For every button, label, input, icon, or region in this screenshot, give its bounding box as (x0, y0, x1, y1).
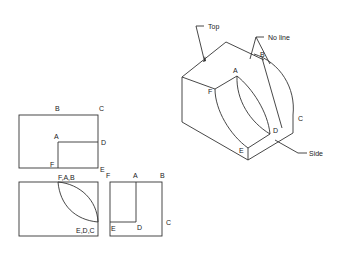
iso-label-e: E (239, 147, 244, 154)
side-callout: Side (309, 150, 323, 157)
top-label-edc: E,D,C (76, 227, 95, 234)
top-callout: Top (208, 23, 219, 31)
iso-line-b-d (262, 58, 282, 128)
side-label-c: C (166, 219, 171, 226)
front-label-d: D (101, 139, 106, 146)
side-label-f: F (106, 172, 110, 179)
side-label-e: E (111, 225, 116, 232)
iso-curve-ad-inner (237, 76, 270, 134)
iso-step-top-edge (248, 134, 270, 148)
side-leader (275, 140, 307, 153)
front-label-e: E (100, 166, 105, 173)
iso-curve-fe (215, 89, 248, 148)
side-label-b: B (160, 172, 165, 179)
front-label-a: A (54, 133, 59, 140)
iso-label-b: B (260, 51, 265, 58)
drawing-canvas: Top No line Side A B C D E F B C A D F E… (0, 0, 341, 257)
iso-bottom-left-edge (182, 122, 248, 160)
iso-curve-bc (254, 54, 293, 115)
iso-top-back-edges (182, 42, 264, 77)
front-label-f: F (50, 161, 54, 168)
side-label-d: D (137, 224, 142, 231)
side-label-a: A (133, 172, 138, 179)
front-label-c: C (99, 105, 104, 112)
no-line-callout: No line (268, 34, 290, 41)
isometric-view: Top No line Side A B C D E F (182, 23, 323, 160)
iso-label-a: A (233, 67, 238, 74)
top-label-fab: F,A,B (58, 174, 75, 181)
iso-label-f: F (208, 88, 212, 95)
front-step (58, 142, 98, 168)
front-view: B C A D F E (19, 105, 106, 173)
front-label-b: B (55, 105, 60, 112)
front-outline (19, 115, 98, 168)
iso-label-c: C (298, 115, 303, 122)
iso-label-d: D (273, 127, 278, 134)
top-leader (196, 26, 204, 59)
iso-curve-ad-outer (237, 76, 270, 134)
top-view: F,A,B E,D,C (19, 174, 98, 236)
side-view: F A B E D C (106, 172, 171, 236)
side-step (110, 182, 136, 222)
